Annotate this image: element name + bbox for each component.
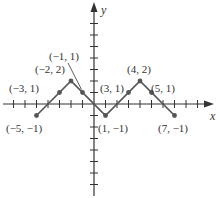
data-point [80, 90, 85, 95]
data-point [103, 113, 108, 118]
point-label: (4, 2) [127, 63, 151, 76]
data-point [34, 113, 39, 118]
point-label: (5, 1) [151, 82, 175, 95]
data-point [138, 79, 143, 84]
point-label: (1, −1) [98, 122, 128, 135]
point-label: (−3, 1) [9, 82, 39, 95]
axes [3, 2, 214, 196]
y-axis-arrow-icon [91, 2, 98, 12]
point-label: (3, 1) [100, 82, 124, 95]
point-label: (7, −1) [158, 122, 188, 135]
graph-plot: (−5, −1)(−3, 1)(−2, 2)(−1, 1)(1, −1)(3, … [0, 0, 220, 198]
x-axis-arrow-icon [204, 101, 214, 108]
data-point [172, 113, 177, 118]
x-axis-label: x [209, 109, 216, 123]
point-label: (−1, 1) [49, 50, 79, 63]
data-point [69, 79, 74, 84]
data-point [126, 90, 131, 95]
y-axis-label: y [100, 3, 107, 17]
point-label: (−5, −1) [6, 122, 43, 135]
point-label: (−2, 2) [35, 63, 65, 76]
data-point [57, 90, 62, 95]
